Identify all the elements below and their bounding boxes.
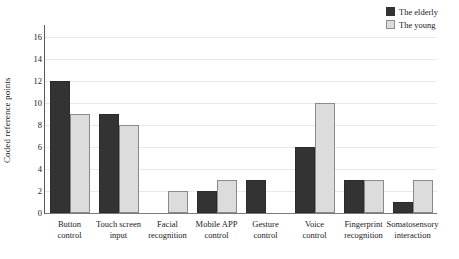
y-tick-label: 6	[38, 143, 42, 152]
bar-group	[295, 37, 335, 213]
legend-item-the-young: The young	[386, 19, 456, 30]
bar-group	[344, 37, 384, 213]
y-tick-label: 4	[38, 165, 42, 174]
legend-label-young: The young	[399, 20, 436, 30]
y-axis-ticks: 0246810121416	[24, 31, 42, 213]
bar-elderly	[197, 191, 217, 213]
bar-elderly	[344, 180, 364, 213]
axis-baseline	[45, 213, 437, 214]
bar-elderly	[50, 81, 70, 213]
bar-elderly	[99, 114, 119, 213]
bar-young	[119, 125, 139, 213]
legend-label-elderly: The elderly	[399, 7, 438, 17]
bar-chart-figure: The elderly The young Coded reference po…	[0, 0, 459, 259]
x-axis-label: Somatosensoryinteraction	[382, 219, 443, 240]
x-axis-category-labels: ButtoncontrolTouch screeninputFacialreco…	[45, 219, 437, 249]
bar-group	[99, 37, 139, 213]
bar-group	[246, 37, 286, 213]
bar-young	[168, 191, 188, 213]
bar-young	[364, 180, 384, 213]
bar-young	[70, 114, 90, 213]
bar-group	[148, 37, 188, 213]
bar-series-container	[45, 31, 437, 213]
bar-young	[217, 180, 237, 213]
bar-group	[197, 37, 237, 213]
bar-group	[50, 37, 90, 213]
bar-elderly	[295, 147, 315, 213]
bar-elderly	[246, 180, 266, 213]
legend-swatch-elderly	[386, 7, 395, 16]
bar-elderly	[393, 202, 413, 213]
bar-group	[393, 37, 433, 213]
plot-area	[45, 31, 437, 213]
y-tick-label: 14	[34, 55, 43, 64]
bar-young	[315, 103, 335, 213]
y-tick-label: 12	[34, 77, 43, 86]
legend-swatch-young	[386, 20, 395, 29]
y-tick-label: 8	[38, 121, 42, 130]
y-tick-label: 2	[38, 187, 42, 196]
legend-item-the-elderly: The elderly	[386, 6, 456, 17]
bar-young	[413, 180, 433, 213]
y-tick-label: 10	[34, 99, 43, 108]
y-tick-label: 0	[38, 209, 42, 218]
y-axis-title: Coded reference points	[0, 60, 14, 180]
chart-legend: The elderly The young	[386, 6, 456, 32]
y-tick-label: 16	[34, 33, 43, 42]
